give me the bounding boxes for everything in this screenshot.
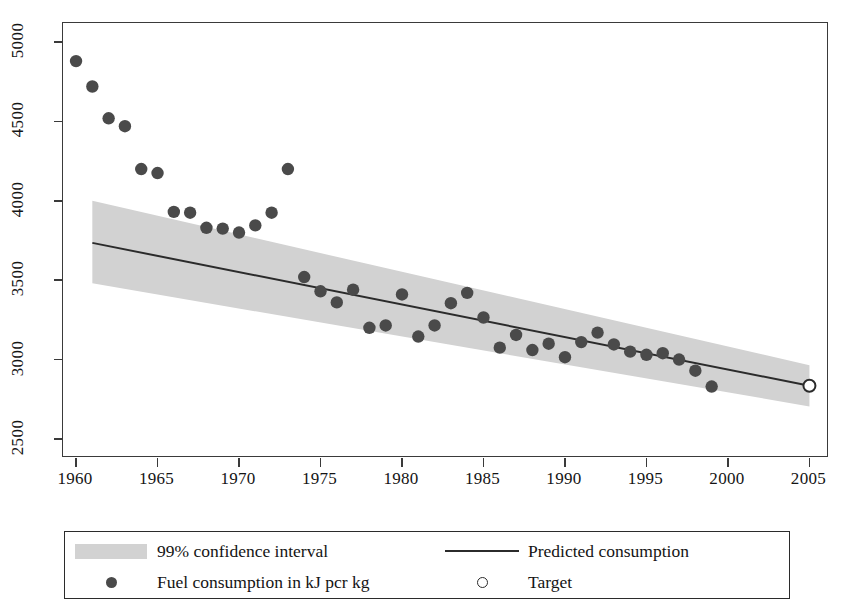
- legend-item-target: Target: [436, 565, 572, 599]
- data-point: [314, 285, 326, 297]
- data-point: [559, 351, 571, 363]
- x-tick: [238, 458, 239, 467]
- data-point: [249, 219, 261, 231]
- legend-label-target: Target: [528, 573, 572, 592]
- data-point: [526, 344, 538, 356]
- x-tick-label: 1970: [208, 470, 268, 487]
- x-tick-label: 1960: [45, 470, 105, 487]
- x-tick: [320, 458, 321, 467]
- y-tick: [54, 359, 63, 360]
- data-point: [184, 207, 196, 219]
- x-tick: [157, 458, 158, 467]
- legend-key-band: [65, 544, 157, 559]
- y-tick: [54, 200, 63, 201]
- legend-label-confidence-interval: 99% confidence interval: [157, 542, 328, 561]
- data-point: [233, 226, 245, 238]
- chart-canvas: [63, 23, 827, 456]
- plot-area: [62, 22, 828, 457]
- y-tick-label: 3500: [9, 248, 26, 310]
- data-point: [510, 329, 522, 341]
- x-tick-label: 1975: [290, 470, 350, 487]
- data-point: [86, 80, 98, 92]
- x-tick-label: 2005: [778, 470, 838, 487]
- y-tick-label: 3000: [9, 327, 26, 389]
- data-point: [396, 288, 408, 300]
- legend-label-predicted-consumption: Predicted consumption: [528, 542, 689, 561]
- data-point: [477, 311, 489, 323]
- data-point: [282, 163, 294, 175]
- data-point: [428, 319, 440, 331]
- legend-item-fuel-consumption: Fuel consumption in kJ pcr kg: [65, 565, 369, 599]
- data-point: [412, 330, 424, 342]
- x-tick-label: 2000: [697, 470, 757, 487]
- x-tick: [75, 458, 76, 467]
- data-point: [217, 222, 229, 234]
- data-point: [135, 163, 147, 175]
- data-point: [70, 55, 82, 67]
- legend-key-filled-dot: [65, 577, 157, 588]
- x-tick: [727, 458, 728, 467]
- data-point: [494, 341, 506, 353]
- legend-item-predicted-consumption: Predicted consumption: [436, 534, 689, 568]
- x-tick: [401, 458, 402, 467]
- x-tick: [646, 458, 647, 467]
- data-point: [542, 337, 554, 349]
- data-point: [608, 338, 620, 350]
- data-point: [624, 345, 636, 357]
- data-point: [298, 271, 310, 283]
- data-point: [657, 347, 669, 359]
- x-tick-label: 1965: [127, 470, 187, 487]
- x-tick: [483, 458, 484, 467]
- data-point: [575, 336, 587, 348]
- data-point: [347, 284, 359, 296]
- data-point: [673, 353, 685, 365]
- x-tick-label: 1980: [371, 470, 431, 487]
- target-point: [803, 380, 815, 392]
- data-point: [705, 380, 717, 392]
- legend-key-line: [436, 550, 528, 552]
- data-point: [380, 319, 392, 331]
- y-tick-label: 4000: [9, 168, 26, 230]
- data-point: [265, 207, 277, 219]
- data-point: [461, 287, 473, 299]
- data-point: [102, 112, 114, 124]
- data-point: [689, 364, 701, 376]
- x-tick: [564, 458, 565, 467]
- data-point: [640, 349, 652, 361]
- data-point: [119, 120, 131, 132]
- data-point: [591, 326, 603, 338]
- data-point: [151, 167, 163, 179]
- x-tick-label: 1990: [534, 470, 594, 487]
- chart-page: 250030003500400045005000 196019651970197…: [0, 0, 853, 612]
- legend-label-fuel-consumption: Fuel consumption in kJ pcr kg: [157, 573, 369, 592]
- legend-key-open-dot: [436, 577, 528, 588]
- data-point: [200, 222, 212, 234]
- x-tick-label: 1995: [615, 470, 675, 487]
- y-tick-label: 4500: [9, 89, 26, 151]
- y-tick: [54, 121, 63, 122]
- y-tick: [54, 279, 63, 280]
- data-point: [363, 322, 375, 334]
- data-point: [331, 296, 343, 308]
- y-tick-label: 2500: [9, 406, 26, 468]
- data-point: [168, 206, 180, 218]
- predicted-consumption-line: [92, 243, 809, 386]
- x-tick-label: 1985: [452, 470, 512, 487]
- y-tick: [54, 438, 63, 439]
- y-tick-label: 5000: [9, 10, 26, 72]
- x-tick: [809, 458, 810, 467]
- plot-inner: [63, 23, 827, 456]
- chart-legend: 99% confidence interval Predicted consum…: [64, 531, 790, 599]
- data-point: [445, 297, 457, 309]
- y-tick: [54, 41, 63, 42]
- legend-item-confidence-interval: 99% confidence interval: [65, 534, 328, 568]
